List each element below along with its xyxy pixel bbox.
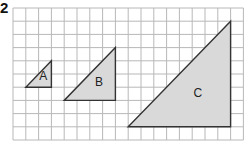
triangle-label: C [193, 86, 202, 100]
triangle-label: A [39, 69, 47, 83]
grid-diagram: ABC [0, 0, 251, 145]
triangle-label: B [95, 75, 103, 89]
